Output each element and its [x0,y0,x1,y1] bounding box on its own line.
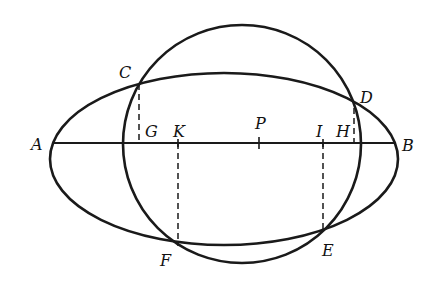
label-f: F [159,251,172,270]
label-d: D [359,88,373,107]
geometry-diagram: A B C D E F G K P I H [0,0,439,292]
label-k: K [172,122,186,141]
label-c: C [119,63,131,82]
label-a: A [29,135,43,154]
label-i: I [315,122,323,141]
label-h: H [335,122,351,141]
label-p: P [254,114,266,133]
ellipse [50,73,398,245]
label-e: E [321,241,334,260]
label-g: G [145,122,158,141]
label-b: B [401,136,414,155]
